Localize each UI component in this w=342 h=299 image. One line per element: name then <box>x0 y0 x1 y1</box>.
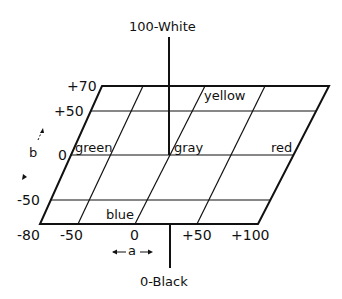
a-tick-minus80: -80 <box>17 228 40 242</box>
b-tick-plus70: +70 <box>67 79 97 93</box>
green-label: green <box>75 141 113 154</box>
blue-label: blue <box>106 208 134 221</box>
a-arrowhead-left-icon <box>112 250 117 255</box>
b-tick-zero: 0 <box>58 148 67 162</box>
a-axis-label: a <box>128 244 136 257</box>
b-axis-label: b <box>29 146 37 159</box>
a-tick-zero: 0 <box>130 228 139 242</box>
b-arrowhead-up-icon <box>40 128 44 133</box>
yellow-label: yellow <box>204 89 246 102</box>
a-arrowhead-right-icon <box>148 250 153 255</box>
red-label: red <box>271 141 292 154</box>
gray-label: gray <box>174 141 203 154</box>
black-label: 0-Black <box>140 275 188 288</box>
a-tick-plus50: +50 <box>182 228 212 242</box>
white-label: 100-White <box>129 20 196 33</box>
a-tick-plus100: +100 <box>231 228 269 242</box>
b-tick-minus50: -50 <box>17 193 40 207</box>
b-tick-plus50: +50 <box>54 104 84 118</box>
b-arrowhead-down-icon <box>22 174 27 180</box>
a-tick-minus50: -50 <box>60 228 83 242</box>
